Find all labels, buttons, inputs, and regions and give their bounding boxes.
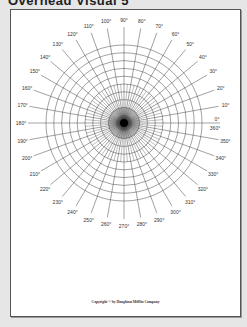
angle-label-330: 330° — [208, 171, 218, 177]
angle-label-250: 250° — [84, 217, 94, 223]
angle-label-340: 340° — [216, 155, 226, 161]
angle-label-270: 270° — [119, 223, 129, 229]
angle-label-50: 50° — [186, 41, 194, 47]
angle-label-120: 120° — [67, 31, 77, 37]
angle-label-60: 60° — [172, 31, 180, 37]
angle-label-140: 140° — [40, 54, 50, 60]
angle-label-360: 360° — [210, 125, 220, 131]
angle-label-150: 150° — [30, 68, 40, 74]
angle-label-200: 200° — [22, 155, 32, 161]
angle-label-240: 240° — [67, 209, 77, 215]
angle-label-90: 90° — [120, 17, 128, 23]
angle-label-160: 160° — [22, 85, 32, 91]
angle-label-310: 310° — [185, 199, 195, 205]
angle-label-100: 100° — [101, 18, 111, 24]
angle-label-170: 170° — [17, 102, 27, 108]
angle-label-320: 320° — [198, 186, 208, 192]
angle-label-220: 220° — [40, 186, 50, 192]
page-title: Overhead Visual 5 — [8, 0, 129, 8]
angle-label-180: 180° — [16, 120, 26, 126]
polar-graph-sheet: 0°10°20°30°40°50°60°70°80°90°100°110°120… — [10, 9, 241, 317]
angle-label-130: 130° — [53, 41, 63, 47]
angle-label-280: 280° — [137, 221, 147, 227]
angle-label-30: 30° — [209, 68, 217, 74]
polar-grid: 0°10°20°30°40°50°60°70°80°90°100°110°120… — [11, 10, 240, 316]
angle-label-230: 230° — [53, 199, 63, 205]
angle-label-80: 80° — [138, 18, 146, 24]
angle-label-10: 10° — [222, 102, 230, 108]
angle-label-350: 350° — [220, 138, 230, 144]
angle-label-210: 210° — [30, 171, 40, 177]
angle-label-260: 260° — [101, 221, 111, 227]
angle-label-110: 110° — [84, 23, 94, 29]
angle-label-190: 190° — [17, 138, 27, 144]
copyright-notice: Copyright © by Houghton Mifflin Company — [11, 300, 240, 304]
angle-label-0: 0° — [215, 116, 220, 122]
angle-label-40: 40° — [199, 54, 207, 60]
angle-label-290: 290° — [154, 217, 164, 223]
center-halo — [117, 116, 131, 130]
angle-label-20: 20° — [217, 85, 225, 91]
angle-label-70: 70° — [155, 23, 163, 29]
angle-label-300: 300° — [170, 209, 180, 215]
